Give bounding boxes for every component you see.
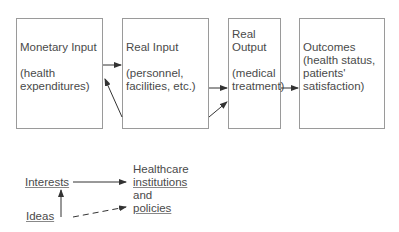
arrow-real-input-to-monetary — [105, 79, 122, 117]
arrow-real-input-to-output-diag — [209, 102, 227, 117]
connector-arrows — [0, 0, 399, 232]
arrow-ideas-to-policies — [73, 207, 126, 217]
